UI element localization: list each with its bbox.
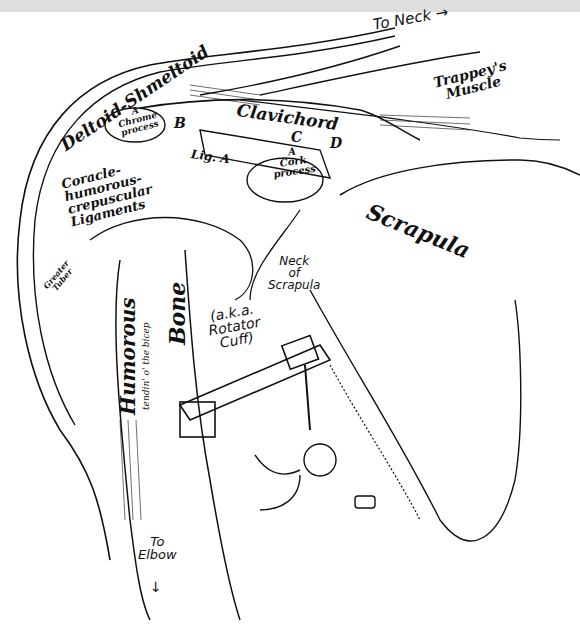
label-rotator-cuff: (a.k.a. Rotator Cuff)	[205, 301, 264, 351]
label-to-elbow: To Elbow	[138, 535, 177, 561]
label-cork-process: A Cork process	[270, 144, 316, 180]
label-tendin: tendin' o' the bicep	[142, 322, 151, 410]
label-humorous: Humorous	[118, 297, 138, 415]
marker-c: C	[291, 130, 302, 144]
marker-d: D	[330, 136, 342, 150]
marker-b: B	[174, 116, 186, 130]
label-bone: Bone	[166, 282, 188, 345]
label-neck-of-scrapula: Neck of Scrapula	[268, 255, 320, 291]
shoulder-illustration	[0, 0, 580, 624]
arrow-down-icon: ↓	[150, 580, 162, 594]
